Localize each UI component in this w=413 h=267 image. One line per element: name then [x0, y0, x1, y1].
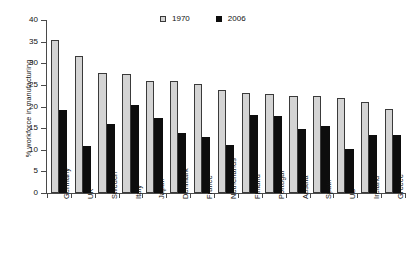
x-axis-label-us: US	[348, 189, 357, 199]
y-axis-tick-label: 30	[18, 59, 38, 67]
x-axis-tick	[190, 194, 191, 198]
y-axis-tick-label: 0	[18, 189, 38, 197]
x-axis-tick	[238, 194, 239, 198]
legend-label-2006: 2006	[228, 15, 246, 23]
x-axis-label-greece: Greece	[396, 174, 405, 199]
x-axis-label-finland: Finland	[253, 174, 262, 199]
y-axis-tick-label: 25	[18, 81, 38, 89]
y-axis-tick	[41, 193, 46, 194]
y-axis-tick	[41, 150, 46, 151]
bar-italy-1970	[122, 74, 130, 193]
x-axis-label-austria: Austria	[301, 175, 310, 199]
legend-item-2006: 2006	[216, 15, 246, 23]
bar-austria-1970	[289, 96, 297, 193]
x-axis-label-japan: Japan	[157, 178, 166, 199]
bar-ireland-1970	[361, 102, 369, 193]
y-axis-tick	[41, 107, 46, 108]
bar-spain-1970	[313, 96, 321, 193]
x-axis-label-spain: Spain	[324, 180, 333, 199]
legend-swatch-2006-icon	[216, 16, 222, 22]
x-axis-label-ireland: Ireland	[372, 176, 381, 199]
x-axis-label-germany: Germany	[62, 168, 71, 199]
y-axis-tick	[41, 85, 46, 86]
y-axis-tick	[41, 171, 46, 172]
bar-netherlands-1970	[218, 90, 226, 193]
bar-italy-2006	[131, 105, 139, 193]
x-axis-label-denmark: Denmark	[181, 168, 190, 199]
x-axis-label-portugal: Portugal	[277, 171, 286, 199]
x-axis-tick	[166, 194, 167, 198]
y-axis-tick	[41, 20, 46, 21]
y-axis-tick	[41, 128, 46, 129]
x-axis-tick	[357, 194, 358, 198]
x-axis-label-italy: Italy	[134, 185, 143, 199]
y-axis-tick-label: 15	[18, 124, 38, 132]
x-axis-tick	[333, 194, 334, 198]
bar-uk-2006	[83, 146, 91, 193]
x-axis-label-sweden: Sweden	[110, 172, 119, 199]
bar-portugal-1970	[265, 94, 273, 193]
bar-finland-1970	[242, 93, 250, 193]
plot-area	[47, 20, 405, 193]
y-axis-tick	[41, 63, 46, 64]
bar-japan-1970	[146, 81, 154, 193]
y-axis-tick-label: 5	[18, 167, 38, 175]
y-axis-tick-label: 20	[18, 103, 38, 111]
bar-germany-1970	[51, 40, 59, 193]
bar-us-2006	[345, 149, 353, 193]
x-axis-label-netherlands: Netherlands	[229, 158, 238, 199]
x-axis-label-france: France	[205, 175, 214, 199]
bar-uk-1970	[75, 56, 83, 193]
bar-denmark-1970	[170, 81, 178, 193]
y-axis-tick-label: 40	[18, 16, 38, 24]
y-axis-tick-label: 35	[18, 38, 38, 46]
legend-label-1970: 1970	[172, 15, 190, 23]
x-axis-tick	[214, 194, 215, 198]
bar-france-1970	[194, 84, 202, 193]
x-axis-tick	[47, 194, 48, 198]
x-axis-tick	[405, 194, 406, 198]
bar-greece-1970	[385, 109, 393, 193]
chart-legend: 1970 2006	[160, 15, 246, 23]
y-axis-tick-label: 10	[18, 146, 38, 154]
manufacturing-workforce-bar-chart: % workforce in manufacturing 05101520253…	[0, 0, 413, 267]
legend-item-1970: 1970	[160, 15, 190, 23]
x-axis-label-uk: UK	[86, 189, 95, 199]
bar-us-1970	[337, 98, 345, 193]
bar-sweden-1970	[98, 73, 106, 193]
y-axis-tick	[41, 42, 46, 43]
x-axis-tick	[71, 194, 72, 198]
x-axis-tick	[381, 194, 382, 198]
legend-swatch-1970-icon	[160, 16, 166, 22]
